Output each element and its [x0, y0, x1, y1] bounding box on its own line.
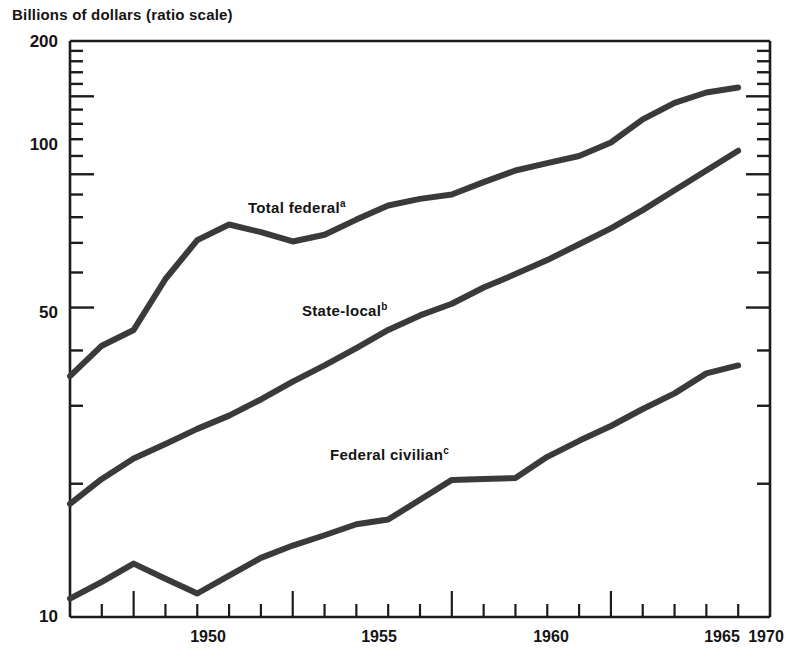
data-series — [70, 88, 738, 599]
y-tick-label-10: 10 — [2, 607, 58, 627]
series-label-state-local: State-localb — [302, 301, 387, 319]
chart-plot-area — [0, 0, 794, 663]
y-tick-label-100: 100 — [2, 135, 58, 155]
chart-figure: Billions of dollars (ratio scale) 200 10… — [0, 0, 794, 663]
series-label-federal-civilian: Federal civilianc — [330, 445, 449, 463]
y-tick-label-50: 50 — [2, 303, 58, 323]
series-label-total-federal: Total federala — [248, 198, 346, 216]
series-footnote-a: a — [340, 198, 346, 209]
series-footnote-b: b — [381, 301, 387, 312]
plot-frame — [70, 41, 770, 617]
series-label-federal-civilian-text: Federal civilian — [330, 446, 443, 463]
series-label-total-federal-text: Total federal — [248, 199, 340, 216]
y-tick-label-200: 200 — [2, 32, 58, 52]
x-tick-label-1950: 1950 — [168, 628, 248, 646]
series-footnote-c: c — [443, 445, 449, 456]
x-tick-label-1970: 1970 — [726, 628, 794, 646]
series-label-state-local-text: State-local — [302, 302, 381, 319]
x-tick-label-1955: 1955 — [339, 628, 419, 646]
x-tick-label-1960: 1960 — [511, 628, 591, 646]
axis-ticks — [70, 51, 770, 617]
